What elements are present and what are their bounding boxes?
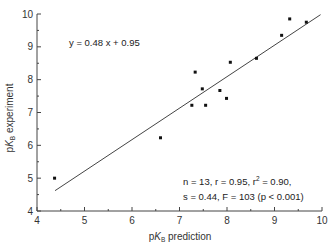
x-tick-label: 5 — [82, 215, 88, 226]
data-point — [288, 17, 291, 20]
y-tick-label: 7 — [27, 107, 33, 118]
stats-line-1: n = 13, r = 0.95, r2 = 0.90, — [183, 175, 291, 187]
x-tick-label: 8 — [224, 215, 230, 226]
y-tick-label: 6 — [27, 140, 33, 151]
x-tick-label: 4 — [34, 215, 40, 226]
stats-line-1-rest: = 0.90, — [260, 176, 292, 187]
data-point — [159, 136, 162, 139]
data-point — [229, 61, 232, 64]
data-point — [190, 104, 193, 107]
x-axis-title-suffix: prediction — [165, 231, 211, 242]
data-point — [218, 89, 221, 92]
stats-line-2: s = 0.44, F = 103 (p < 0.001) — [183, 191, 304, 202]
x-axis-title: pKB prediction — [149, 231, 212, 243]
data-point — [255, 57, 258, 60]
x-tick-label: 10 — [316, 215, 328, 226]
data-point — [53, 177, 56, 180]
y-tick-label: 10 — [22, 9, 34, 20]
y-tick-label: 4 — [27, 206, 33, 217]
data-point — [280, 34, 283, 37]
y-ticks: 45678910 — [22, 9, 41, 217]
y-tick-label: 9 — [27, 41, 33, 52]
y-tick-label: 8 — [27, 74, 33, 85]
data-point — [305, 21, 308, 24]
data-point — [225, 97, 228, 100]
data-point — [201, 87, 204, 90]
x-tick-label: 7 — [177, 215, 183, 226]
data-point — [194, 71, 197, 74]
scatter-chart: 45678910 45678910 y = 0.48 x + 0.95 n = … — [0, 0, 335, 246]
x-tick-label: 9 — [272, 215, 278, 226]
stats-line-1-main: n = 13, r = 0.95, r — [183, 176, 256, 187]
x-tick-label: 6 — [129, 215, 135, 226]
x-ticks: 45678910 — [34, 207, 328, 226]
y-tick-label: 5 — [27, 173, 33, 184]
y-axis-title-suffix: experiment — [4, 83, 15, 135]
y-axis-title: pKB experiment — [4, 83, 16, 152]
data-point — [204, 104, 207, 107]
regression-equation: y = 0.48 x + 0.95 — [69, 37, 140, 48]
